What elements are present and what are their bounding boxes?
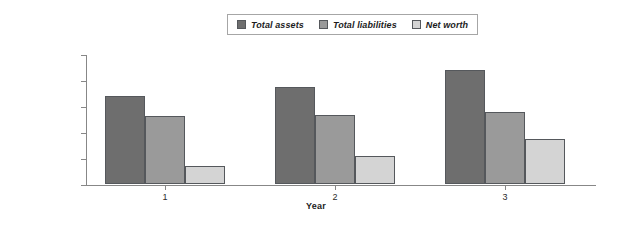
bar[interactable] (105, 96, 145, 184)
y-tick-mark (81, 55, 86, 56)
y-axis-line (86, 55, 87, 186)
legend-entry-net-worth: Net worth (412, 20, 468, 30)
bar-group (445, 54, 565, 184)
legend-label-total-assets: Total assets (251, 20, 304, 30)
legend-label-net-worth: Net worth (426, 20, 468, 30)
y-tick-mark (81, 185, 86, 186)
bar[interactable] (445, 70, 485, 184)
y-tick-mark (81, 133, 86, 134)
bar[interactable] (145, 116, 185, 184)
x-tick-mark (335, 186, 336, 190)
legend-entry-total-assets: Total assets (237, 20, 304, 30)
bar[interactable] (355, 156, 395, 184)
bar[interactable] (315, 115, 355, 184)
legend-label-total-liabilities: Total liabilities (333, 20, 397, 30)
bar-group (275, 54, 395, 184)
bar[interactable] (525, 139, 565, 184)
bar-group (105, 54, 225, 184)
x-tick-mark (505, 186, 506, 190)
y-tick-mark (81, 107, 86, 108)
bar[interactable] (275, 87, 315, 184)
x-tick-mark (165, 186, 166, 190)
legend-swatch-net-worth (412, 20, 421, 29)
x-axis-line (86, 185, 596, 186)
legend-swatch-total-liabilities (319, 20, 328, 29)
legend-swatch-total-assets (237, 20, 246, 29)
bar[interactable] (485, 112, 525, 184)
chart-legend: Total assets Total liabilities Net worth (227, 14, 478, 35)
y-tick-mark (81, 81, 86, 82)
y-tick-mark (81, 159, 86, 160)
legend-entry-total-liabilities: Total liabilities (319, 20, 397, 30)
bar[interactable] (185, 166, 225, 184)
bar-chart: Total assets Total liabilities Net worth… (0, 0, 632, 227)
x-axis-title: Year (0, 201, 632, 211)
plot-area: $0$50,000$100,000$150,000$200,000$250,00… (86, 55, 596, 185)
